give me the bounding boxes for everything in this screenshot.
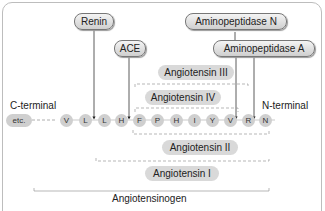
residue-f: F (133, 114, 146, 127)
residue-r: R (242, 114, 255, 127)
residue-p: P (151, 114, 164, 127)
residue-h: H (170, 114, 183, 127)
c-terminal-label: C-terminal (10, 100, 56, 111)
residue-etc: etc. (6, 114, 32, 127)
residue-y: Y (206, 114, 219, 127)
angiotensin-iii-label: Angiotensin III (158, 65, 234, 80)
residue-l: L (79, 114, 92, 127)
residue-h: H (115, 114, 128, 127)
angiotensin-ii-label: Angiotensin II (162, 140, 238, 155)
aminopeptidase-a-label: Aminopeptidase A (213, 40, 315, 57)
renin-enzyme-label: Renin (74, 13, 114, 30)
angiotensinogen-label: Angiotensinogen (112, 193, 187, 204)
aminopeptidase-n-label: Aminopeptidase N (185, 13, 287, 30)
residue-n: N (259, 114, 272, 127)
residue-i: I (188, 114, 201, 127)
angiotensin-i-label: Angiotensin I (145, 166, 219, 181)
residue-v: V (224, 114, 237, 127)
residue-v: V (60, 114, 73, 127)
n-terminal-label: N-terminal (262, 100, 308, 111)
residue-l: L (98, 114, 111, 127)
angiotensin-iv-label: Angiotensin IV (145, 90, 221, 105)
ace-enzyme-label: ACE (114, 40, 146, 57)
